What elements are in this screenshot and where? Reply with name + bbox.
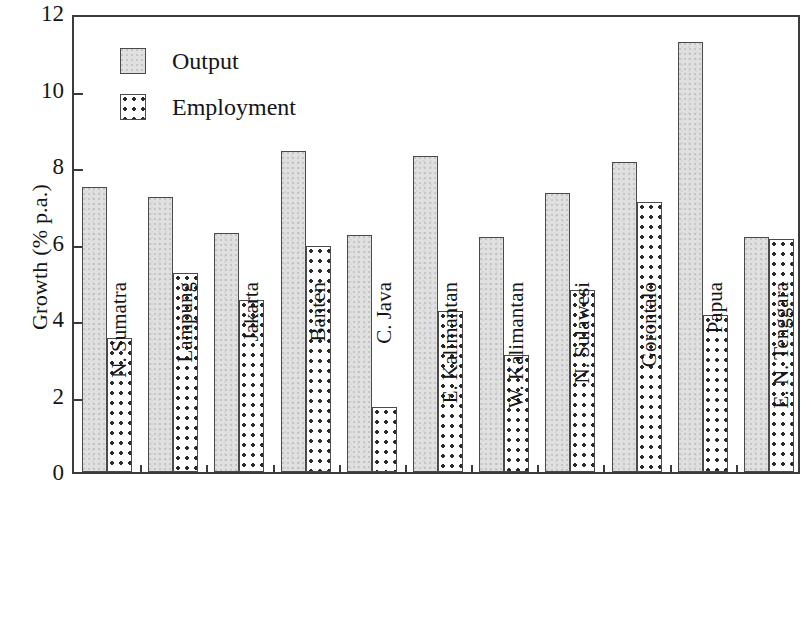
bar-output: [214, 233, 239, 472]
y-tick-label: 10: [18, 79, 64, 102]
bar-output: [479, 237, 504, 472]
x-tick-label: Gorontalo: [637, 282, 662, 482]
bar-output: [744, 237, 769, 472]
x-axis-tick-mark: [471, 465, 473, 472]
bar-chart: Growth (% p.a.) 024681012 OutputEmployme…: [0, 0, 811, 639]
legend-label: Output: [172, 48, 239, 75]
x-tick-label: N. Sumatra: [107, 282, 132, 482]
x-axis-tick-mark: [537, 465, 539, 472]
legend-item: Output: [120, 38, 296, 84]
y-tick-label: 2: [18, 385, 64, 408]
x-tick-label: E. Kalimantan: [438, 282, 463, 482]
bar-output: [82, 187, 107, 472]
x-tick-label: W. Kalimantan: [504, 282, 529, 482]
bar-output: [612, 162, 637, 472]
bar-output: [347, 235, 372, 472]
x-axis-tick-mark: [603, 465, 605, 472]
legend-label: Employment: [172, 94, 296, 121]
y-tick-label: 8: [18, 155, 64, 178]
bar-output: [678, 42, 703, 472]
x-axis-tick-labels: N. SumatraLampungJakartaBantenC. JavaE. …: [72, 474, 800, 639]
y-tick-label: 4: [18, 308, 64, 331]
x-axis-tick-mark: [670, 465, 672, 472]
bar-output: [545, 193, 570, 472]
chart-legend: OutputEmployment: [120, 38, 296, 130]
x-axis-tick-mark: [736, 465, 738, 472]
x-tick-label: C. Java: [372, 282, 397, 482]
legend-item: Employment: [120, 84, 296, 130]
x-tick-label: Papua: [703, 282, 728, 482]
bar-output: [281, 151, 306, 472]
x-tick-label: Lampung: [173, 282, 198, 482]
bar-output: [148, 197, 173, 472]
bar-output: [413, 156, 438, 472]
y-tick-label: 0: [18, 461, 64, 484]
x-tick-label: Jakarta: [239, 282, 264, 482]
y-tick-label: 6: [18, 232, 64, 255]
x-axis-tick-mark: [273, 465, 275, 472]
y-axis-tick-labels: 024681012: [8, 0, 64, 639]
legend-swatch-output: [120, 48, 146, 74]
x-axis-tick-mark: [405, 465, 407, 472]
x-tick-label: E. N. Tenggara: [769, 282, 794, 482]
legend-swatch-employment: [120, 94, 146, 120]
x-axis-tick-mark: [339, 465, 341, 472]
x-tick-label: N. Sulawesi: [570, 282, 595, 482]
x-axis-tick-mark: [140, 465, 142, 472]
x-axis-tick-mark: [206, 465, 208, 472]
x-tick-label: Banten: [306, 282, 331, 482]
y-tick-label: 12: [18, 2, 64, 25]
